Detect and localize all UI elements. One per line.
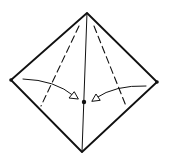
valley-fold-right (94, 26, 126, 106)
center-crease (82, 13, 87, 152)
right-arrowhead-icon (92, 94, 100, 101)
right-point-dot (155, 80, 159, 84)
left-point-dot (9, 78, 13, 82)
origami-diagram (0, 0, 170, 157)
right-flap-arrow (96, 86, 146, 98)
center-point-dot (82, 100, 86, 104)
left-flap-arrow (23, 79, 74, 96)
